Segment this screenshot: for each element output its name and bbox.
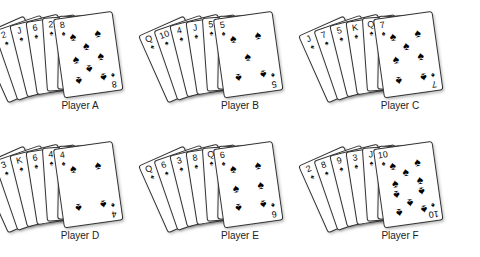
- spade-icon: ♠: [229, 162, 237, 175]
- spade-icon: ♠: [420, 203, 428, 216]
- spade-icon: ♠: [257, 178, 265, 191]
- spade-icon: ♠: [395, 75, 403, 88]
- card-index: 6♠: [30, 152, 41, 169]
- spade-icon: ♠: [232, 182, 240, 195]
- player-label: Player A: [0, 100, 160, 111]
- player-label: Player B: [160, 100, 320, 111]
- spade-icon: ♠: [69, 30, 77, 43]
- card-fan: K♠3♠K♠6♠4♠9♠4♠♠♠♠♠4♠: [0, 130, 160, 240]
- spade-icon: ♠: [259, 68, 267, 81]
- player-hand: 2♠8♠9♠3♠J♠Q♠10♠♠♠♠♠♠♠♠♠♠♠10♠Player F: [320, 130, 480, 257]
- player-label: Player E: [160, 230, 320, 241]
- spade-icon: ♠: [420, 71, 428, 84]
- spade-icon: ♠: [235, 202, 243, 215]
- card-pips: ♠♠♠♠♠: [223, 23, 272, 84]
- spade-icon: ♠: [147, 172, 158, 182]
- card-index-bottom: 8♠: [108, 72, 119, 89]
- card-index: 6♠: [30, 22, 41, 39]
- card-fan: Q♠6♠3♠8♠Q♠10♠6♠♠♠♠♠♠♠6♠: [160, 130, 320, 240]
- spade-icon: ♠: [268, 72, 278, 80]
- card-pips: ♠♠♠♠♠♠♠: [383, 23, 432, 84]
- card-rank: 3: [352, 152, 359, 163]
- spade-icon: ♠: [94, 27, 102, 40]
- card-index: J♠: [14, 25, 27, 43]
- card-index-bottom: 10♠: [428, 202, 439, 219]
- card-index: 5♠: [334, 25, 347, 43]
- card-rank: 8: [192, 152, 199, 163]
- spade-icon: ♠: [259, 198, 267, 211]
- card-pips: ♠♠♠♠: [63, 153, 112, 214]
- spade-icon: ♠: [147, 42, 158, 52]
- spade-icon: ♠: [389, 30, 397, 43]
- card-index: 8♠: [190, 152, 201, 169]
- spade-icon: ♠: [235, 72, 243, 85]
- card-fan: J♠7♠5♠K♠Q♠5♠7♠♠♠♠♠♠♠♠7♠: [320, 0, 480, 110]
- card-index: J♠: [190, 22, 201, 39]
- front-card: 5♠♠♠♠♠♠5♠: [213, 11, 284, 99]
- front-card: 10♠♠♠♠♠♠♠♠♠♠♠10♠: [373, 141, 444, 229]
- card-fan: 10♠2♠J♠6♠2♠9♠8♠♠♠♠♠♠♠♠♠8♠: [0, 0, 160, 110]
- card-index-bottom: 6♠: [268, 202, 279, 219]
- spade-icon: ♠: [307, 42, 318, 52]
- card-rank: 6: [32, 152, 39, 163]
- player-label: Player F: [320, 230, 480, 241]
- spade-icon: ♠: [392, 53, 400, 66]
- spade-icon: ♠: [108, 202, 118, 210]
- spade-icon: ♠: [82, 39, 90, 52]
- player-hand: 10♠2♠J♠6♠2♠9♠8♠♠♠♠♠♠♠♠♠8♠Player A: [0, 0, 160, 128]
- card-index: 3♠: [350, 152, 361, 169]
- card-index: 9♠: [334, 155, 347, 173]
- card-rank: 7: [431, 79, 437, 90]
- card-rank: 5: [271, 79, 277, 90]
- spade-icon: ♠: [85, 63, 93, 76]
- spade-icon: ♠: [94, 159, 102, 172]
- spade-icon: ♠: [254, 29, 262, 42]
- card-rank: 8: [111, 79, 117, 90]
- spade-icon: ♠: [72, 53, 80, 66]
- card-index: 4♠: [174, 25, 187, 43]
- player-hand: Q♠10♠4♠J♠5♠J♠5♠♠♠♠♠♠5♠Player B: [160, 0, 320, 128]
- spade-icon: ♠: [244, 50, 252, 63]
- spade-icon: ♠: [97, 49, 105, 62]
- spade-icon: ♠: [418, 185, 426, 198]
- spade-icon: ♠: [389, 159, 397, 172]
- card-rank: 6: [32, 22, 39, 33]
- front-card: 4♠♠♠♠♠4♠: [53, 141, 124, 229]
- player-hand: K♠3♠K♠6♠4♠9♠4♠♠♠♠♠4♠Player D: [0, 130, 160, 257]
- card-index-bottom: 4♠: [108, 202, 119, 219]
- spade-icon: ♠: [229, 32, 237, 45]
- player-hand: J♠7♠5♠K♠Q♠5♠7♠♠♠♠♠♠♠♠7♠Player C: [320, 0, 480, 128]
- player-label: Player D: [0, 230, 160, 241]
- spade-icon: ♠: [254, 159, 262, 172]
- player-label: Player C: [320, 100, 480, 111]
- front-card: 6♠♠♠♠♠♠♠6♠: [213, 141, 284, 229]
- card-rank: K: [351, 22, 359, 33]
- spade-icon: ♠: [268, 202, 278, 210]
- spade-icon: ♠: [428, 72, 438, 80]
- spade-icon: ♠: [414, 27, 422, 40]
- card-pips: ♠♠♠♠♠♠: [223, 153, 272, 214]
- spade-icon: ♠: [395, 207, 403, 220]
- front-card: 7♠♠♠♠♠♠♠♠7♠: [373, 11, 444, 99]
- card-rank: 6: [271, 209, 277, 220]
- card-fan: 2♠8♠9♠3♠J♠Q♠10♠♠♠♠♠♠♠♠♠♠♠10♠: [320, 130, 480, 240]
- spade-icon: ♠: [100, 71, 108, 84]
- player-hand: Q♠6♠3♠8♠Q♠10♠6♠♠♠♠♠♠♠6♠Player E: [160, 130, 320, 257]
- spade-icon: ♠: [406, 197, 414, 210]
- spade-icon: ♠: [393, 189, 401, 202]
- card-index-bottom: 7♠: [428, 72, 439, 89]
- card-fan: Q♠10♠4♠J♠5♠J♠5♠♠♠♠♠♠5♠: [160, 0, 320, 110]
- card-pips: ♠♠♠♠♠♠♠♠: [63, 23, 112, 84]
- card-pips: ♠♠♠♠♠♠♠♠♠♠: [383, 153, 432, 214]
- spade-icon: ♠: [75, 75, 83, 88]
- spade-icon: ♠: [69, 162, 77, 175]
- card-index: 3♠: [174, 155, 187, 173]
- card-rank: J: [192, 22, 198, 33]
- spade-icon: ♠: [417, 49, 425, 62]
- front-card: 8♠♠♠♠♠♠♠♠♠8♠: [53, 11, 124, 99]
- card-index: K♠: [14, 155, 27, 173]
- spade-icon: ♠: [402, 165, 410, 178]
- spade-icon: ♠: [307, 172, 318, 182]
- spade-icon: ♠: [108, 72, 118, 80]
- card-index: K♠: [350, 22, 361, 39]
